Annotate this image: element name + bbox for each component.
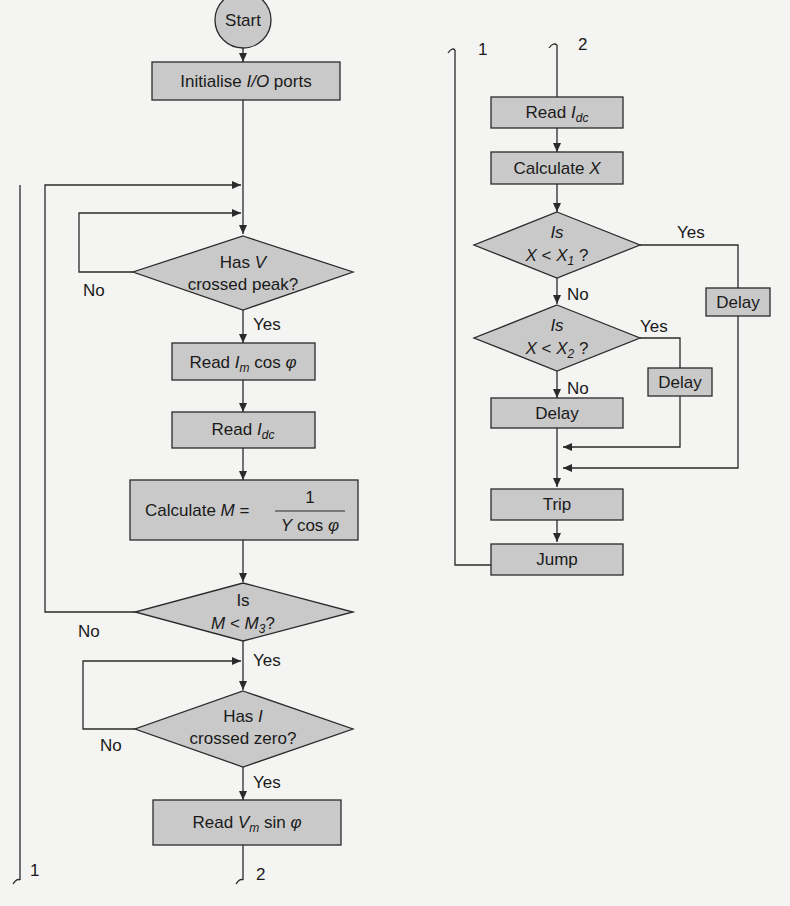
dec-x1-line2: X < X1 ? — [525, 246, 589, 268]
dec-m-line2: M < M3? — [211, 614, 275, 636]
dec-v-yes-label: Yes — [253, 315, 281, 334]
dec-i-no-label: No — [100, 736, 122, 755]
loop-m-no-line — [45, 460, 135, 612]
init-label: Initialise I/O ports — [180, 72, 311, 91]
start-label: Start — [225, 11, 261, 30]
r-connector-1-label: 1 — [478, 40, 487, 59]
svg-text:Calculate M =: Calculate M = — [145, 501, 250, 520]
dec-v-line2: crossed peak? — [188, 275, 299, 294]
dec-x1-no-label: No — [567, 285, 589, 304]
r-connector-2-label: 2 — [578, 35, 587, 54]
outer-top — [20, 150, 243, 185]
dec-x1-line1: Is — [550, 223, 564, 242]
read-vm-label: Read Vm sin φ — [193, 813, 302, 835]
dec-v-peak — [133, 236, 353, 310]
dec-x2 — [474, 305, 640, 371]
dec-x2-line2: X < X2 ? — [525, 339, 589, 361]
jump-label: Jump — [536, 550, 578, 569]
connector-2-label: 2 — [256, 865, 265, 884]
dec-x2-line1: Is — [550, 316, 564, 335]
delay-main-label: Delay — [535, 404, 579, 423]
connector-1-break — [13, 880, 20, 885]
dec-m-no-label: No — [78, 622, 100, 641]
calc-x-label: Calculate X — [514, 159, 602, 178]
dec-x2-yes-label: Yes — [640, 317, 668, 336]
dec-i-yes-label: Yes — [253, 773, 281, 792]
delay-x1-label: Delay — [716, 293, 760, 312]
r-connector-2-break — [549, 44, 557, 48]
dec-m-line1: Is — [236, 591, 249, 610]
delay-x2-label: Delay — [658, 373, 702, 392]
svg-text:Y cos φ: Y cos φ — [281, 516, 339, 535]
dec-x1 — [474, 212, 640, 278]
dec-v-line1: Has V — [220, 253, 268, 272]
x2-yes-line — [640, 338, 680, 368]
connector-2-break — [236, 880, 243, 885]
trip-label: Trip — [543, 495, 572, 514]
dec-m-yes-label: Yes — [253, 651, 281, 670]
connector-1-label: 1 — [30, 861, 39, 880]
x1-yes-line — [640, 245, 738, 288]
r-connector-1-break — [448, 49, 455, 53]
dec-x2-no-label: No — [567, 379, 589, 398]
dec-i-line1: Has I — [223, 707, 263, 726]
dec-x1-yes-label: Yes — [677, 223, 705, 242]
dec-i-line2: crossed zero? — [190, 729, 297, 748]
svg-text:1: 1 — [305, 488, 314, 507]
dec-v-no-label: No — [83, 281, 105, 300]
flowchart: Start Initialise I/O ports Has V crossed… — [0, 0, 790, 906]
